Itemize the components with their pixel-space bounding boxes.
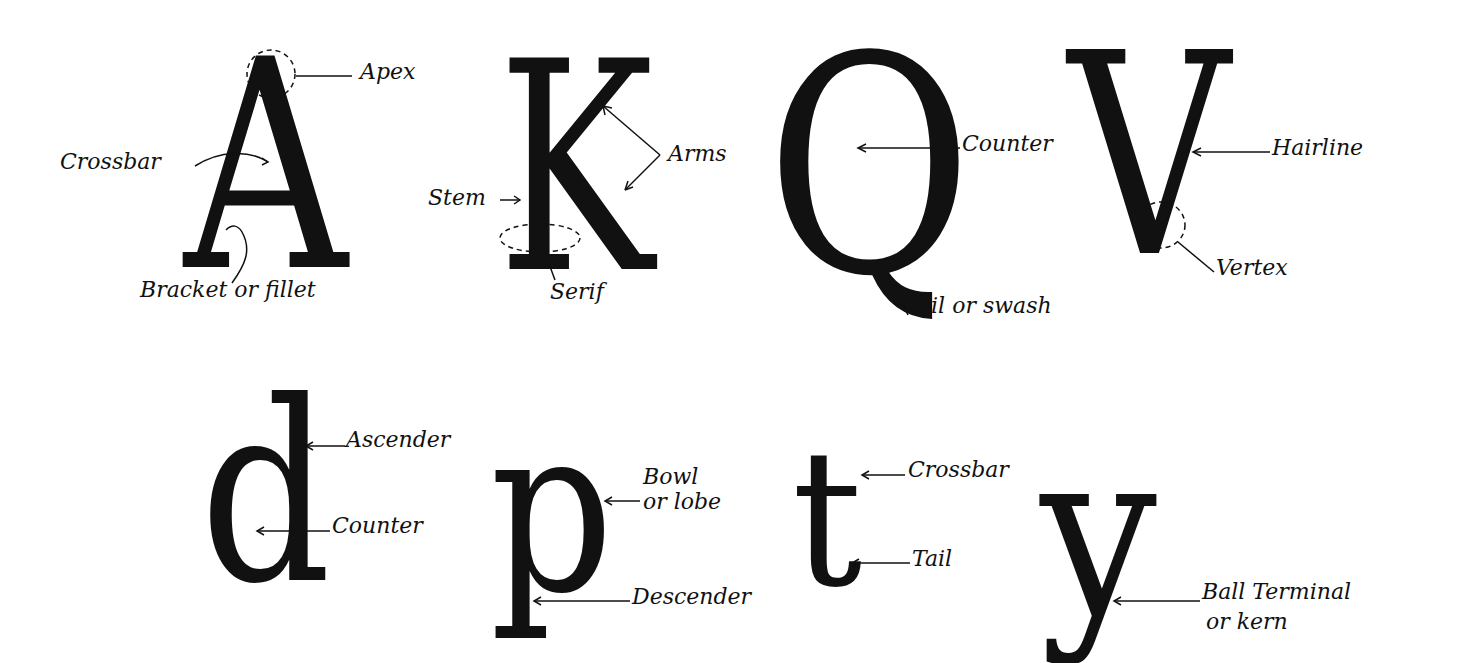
label-tail-t: Tail — [912, 547, 952, 570]
label-descender: Descender — [632, 585, 751, 608]
label-counter-d: Counter — [332, 514, 423, 537]
label-apex: Apex — [360, 60, 415, 83]
typography-anatomy-diagram: A K Q V d p t y — [0, 0, 1479, 663]
serif-marker-icon — [500, 224, 580, 252]
callout-lines — [0, 0, 1479, 663]
label-stem: Stem — [428, 186, 486, 209]
vertex-marker-icon — [1137, 202, 1185, 248]
label-serif: Serif — [550, 280, 604, 303]
label-arms: Arms — [668, 142, 727, 165]
label-ascender: Ascender — [346, 428, 450, 451]
label-ball-terminal-2: or kern — [1206, 610, 1288, 633]
label-bowl: Bowl — [643, 465, 698, 488]
label-hairline: Hairline — [1272, 136, 1363, 159]
label-counter-q: Counter — [962, 132, 1053, 155]
label-crossbar-t: Crossbar — [908, 458, 1009, 481]
label-bracket: Bracket or fillet — [140, 278, 316, 301]
label-vertex: Vertex — [1216, 256, 1288, 279]
label-ball-terminal: Ball Terminal — [1202, 580, 1351, 603]
label-tail-swash: Tail or swash — [905, 294, 1052, 317]
label-bowl-2: or lobe — [643, 490, 721, 513]
label-crossbar-a: Crossbar — [60, 150, 161, 173]
apex-marker-icon — [247, 50, 295, 98]
